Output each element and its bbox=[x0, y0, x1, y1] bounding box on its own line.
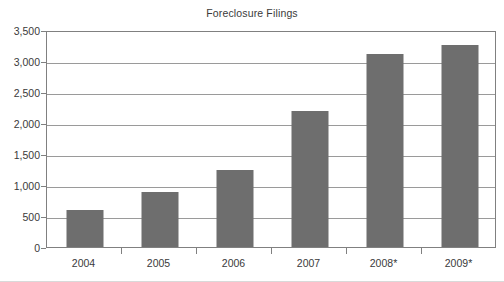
x-tick-label: 2005 bbox=[147, 257, 170, 269]
plot-area bbox=[46, 31, 496, 248]
y-tick-label: 500 bbox=[0, 211, 40, 223]
y-tick-label: 0 bbox=[0, 242, 40, 254]
y-tick-mark bbox=[41, 155, 46, 156]
y-tick-mark bbox=[41, 248, 46, 249]
bar bbox=[291, 111, 328, 247]
chart-figure: Foreclosure Filings 05001,0001,5002,0002… bbox=[0, 0, 504, 282]
y-tick-label: 1,000 bbox=[0, 180, 40, 192]
x-tick-label: 2006 bbox=[222, 257, 245, 269]
x-tick-label: 2004 bbox=[72, 257, 95, 269]
bar bbox=[441, 45, 478, 247]
bar-slot bbox=[347, 32, 422, 247]
y-tick-mark bbox=[41, 93, 46, 94]
bar-slot bbox=[47, 32, 122, 247]
y-tick-label: 3,000 bbox=[0, 56, 40, 68]
y-tick-label: 2,000 bbox=[0, 118, 40, 130]
y-tick-mark bbox=[41, 186, 46, 187]
bar bbox=[366, 54, 403, 247]
y-tick-label: 2,500 bbox=[0, 87, 40, 99]
x-tick-mark bbox=[271, 248, 272, 254]
x-tick-mark bbox=[421, 248, 422, 254]
bar-slot bbox=[272, 32, 347, 247]
y-axis: 05001,0001,5002,0002,5003,0003,500 bbox=[0, 31, 40, 248]
x-tick-mark bbox=[196, 248, 197, 254]
x-tick-label: 2008* bbox=[370, 257, 397, 269]
bar-slot bbox=[122, 32, 197, 247]
bar bbox=[66, 210, 103, 247]
bar-series bbox=[47, 32, 495, 247]
y-tick-mark bbox=[41, 31, 46, 32]
y-tick-mark bbox=[41, 124, 46, 125]
y-tick-mark bbox=[41, 62, 46, 63]
y-tick-label: 3,500 bbox=[0, 25, 40, 37]
x-axis: 20042005200620072008*2009* bbox=[46, 257, 496, 275]
bar-slot bbox=[422, 32, 497, 247]
bar bbox=[216, 170, 253, 248]
x-tick-mark bbox=[121, 248, 122, 254]
chart-title: Foreclosure Filings bbox=[0, 7, 504, 19]
y-tick-mark bbox=[41, 217, 46, 218]
x-tick-mark bbox=[346, 248, 347, 254]
bar bbox=[141, 192, 178, 247]
y-tick-label: 1,500 bbox=[0, 149, 40, 161]
bar-slot bbox=[197, 32, 272, 247]
x-tick-label: 2007 bbox=[297, 257, 320, 269]
x-tick-label: 2009* bbox=[445, 257, 472, 269]
